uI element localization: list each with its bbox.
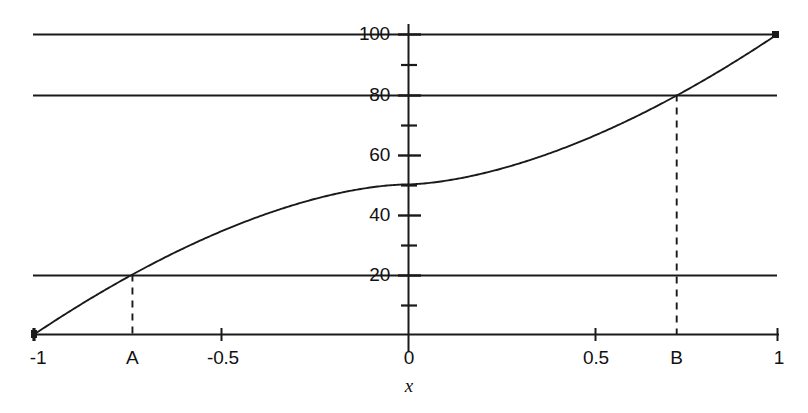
curve-start-marker — [31, 330, 37, 338]
annotation-label-b: B — [670, 347, 683, 369]
x-tick-label--1: -1 — [30, 347, 47, 369]
y-tick-label-80: 80 — [338, 84, 390, 106]
x-tick-label--0-5: -0.5 — [207, 347, 239, 369]
data-series-curve — [34, 35, 777, 335]
y-tick-label-100: 100 — [338, 23, 390, 45]
curve-end-marker — [772, 31, 779, 38]
x-axis-title: x — [405, 375, 413, 397]
x-tick-label-1: 1 — [774, 347, 784, 369]
annotation-label-a: A — [126, 347, 139, 369]
y-tick-label-40: 40 — [338, 204, 390, 226]
chart-figure: 100 80 60 40 20 -1 -0.5 0 0.5 1 A B x — [0, 0, 808, 413]
x-tick-label-0: 0 — [404, 347, 414, 369]
x-tick-label-0-5: 0.5 — [583, 347, 609, 369]
y-tick-label-20: 20 — [338, 264, 390, 286]
y-tick-label-60: 60 — [338, 144, 390, 166]
